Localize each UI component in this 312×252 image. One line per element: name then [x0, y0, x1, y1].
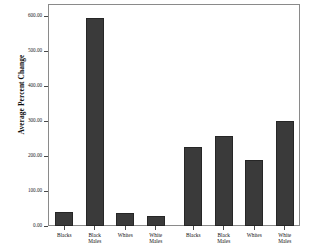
y-tick-label: 600.00 [28, 12, 42, 18]
y-tick-label: 0.00 [33, 222, 42, 228]
x-tick-mark [193, 226, 194, 230]
y-tick-mark [44, 51, 48, 52]
bar [245, 160, 263, 227]
bar [184, 147, 202, 226]
bar [215, 136, 233, 226]
y-tick-mark [44, 191, 48, 192]
bar [147, 216, 165, 226]
bar [116, 213, 134, 226]
y-tick-label: 300.00 [28, 117, 42, 123]
x-tick-mark [94, 226, 95, 230]
x-tick-mark [284, 226, 285, 230]
y-tick-label: 100.00 [28, 187, 42, 193]
bar [276, 121, 294, 226]
bar [55, 212, 73, 226]
x-tick-mark [155, 226, 156, 230]
x-tick-mark [125, 226, 126, 230]
y-tick-label: 200.00 [28, 152, 42, 158]
y-axis-title: Average Percent Change [17, 30, 26, 160]
x-tick-mark [64, 226, 65, 230]
x-tick-label: White Males [262, 232, 308, 244]
x-tick-mark [254, 226, 255, 230]
y-tick-label: 400.00 [28, 82, 42, 88]
bar [86, 18, 104, 226]
y-tick-mark [44, 16, 48, 17]
y-tick-mark [44, 156, 48, 157]
y-tick-mark [44, 226, 48, 227]
y-tick-label: 500.00 [28, 47, 42, 53]
y-tick-mark [44, 86, 48, 87]
bar-chart: Average Percent Change Industrial Shift,… [0, 0, 312, 252]
y-tick-mark [44, 121, 48, 122]
x-tick-mark [223, 226, 224, 230]
